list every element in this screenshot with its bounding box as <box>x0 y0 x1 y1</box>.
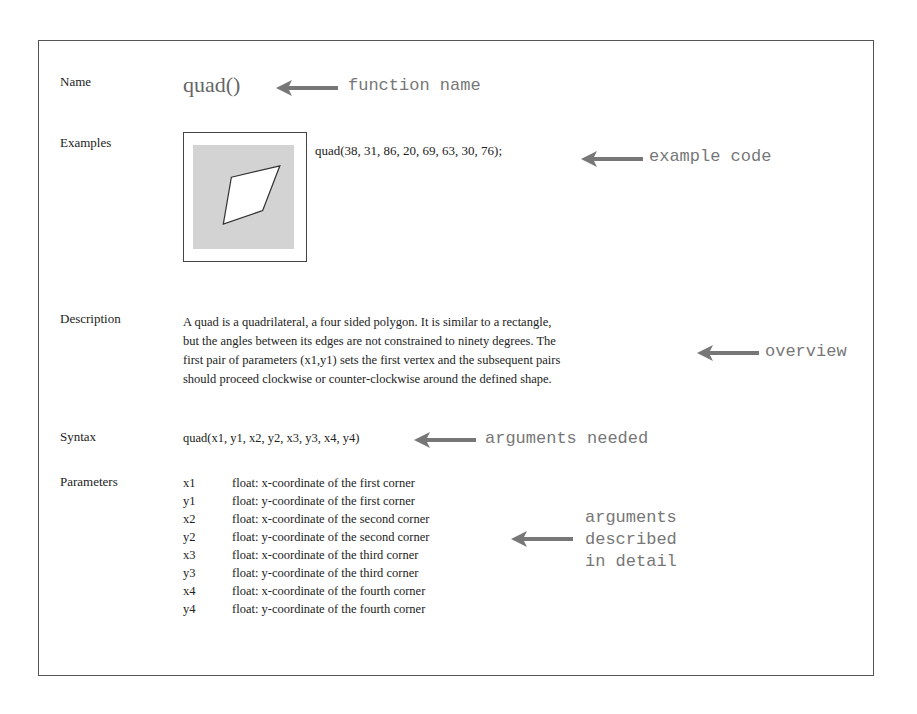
arrow-left-icon <box>511 531 573 547</box>
parameter-name: y2 <box>183 528 232 546</box>
label-name: Name <box>60 74 91 90</box>
parameter-row: y4float: y-coordinate of the fourth corn… <box>183 600 430 618</box>
parameter-row: y1float: y-coordinate of the first corne… <box>183 492 430 510</box>
parameter-name: x1 <box>183 474 232 492</box>
description-line: should proceed clockwise or counter-cloc… <box>183 370 693 389</box>
parameter-desc: float: x-coordinate of the fourth corner <box>232 582 425 600</box>
annotation-overview: overview <box>765 342 847 361</box>
description-line: but the angles between its edges are not… <box>183 332 693 351</box>
example-image <box>183 132 307 262</box>
label-examples: Examples <box>60 135 111 151</box>
example-canvas <box>193 145 294 249</box>
label-parameters: Parameters <box>60 474 118 490</box>
parameter-desc: float: y-coordinate of the third corner <box>232 564 418 582</box>
arrow-left-icon <box>697 345 759 361</box>
arrow-left-icon <box>276 80 338 96</box>
description-text: A quad is a quadrilateral, a four sided … <box>183 313 693 389</box>
annotation-arguments-needed: arguments needed <box>485 429 648 448</box>
parameter-row: x1float: x-coordinate of the first corne… <box>183 474 430 492</box>
annotation-example-code: example code <box>649 147 771 166</box>
parameter-row: x4float: x-coordinate of the fourth corn… <box>183 582 430 600</box>
parameter-desc: float: x-coordinate of the first corner <box>232 474 415 492</box>
parameter-desc: float: x-coordinate of the third corner <box>232 546 418 564</box>
parameter-row: x3float: x-coordinate of the third corne… <box>183 546 430 564</box>
parameter-name: x3 <box>183 546 232 564</box>
quad-shape <box>193 145 294 249</box>
parameter-name: y1 <box>183 492 232 510</box>
annotation-arguments-detail: arguments described in detail <box>585 507 677 573</box>
parameter-row: x2float: x-coordinate of the second corn… <box>183 510 430 528</box>
parameter-name: y4 <box>183 600 232 618</box>
example-code: quad(38, 31, 86, 20, 69, 63, 30, 76); <box>315 143 502 159</box>
parameter-desc: float: x-coordinate of the second corner <box>232 510 430 528</box>
syntax-text: quad(x1, y1, x2, y2, x3, y3, x4, y4) <box>183 431 359 446</box>
annotation-function-name: function name <box>348 76 481 95</box>
parameter-desc: float: y-coordinate of the fourth corner <box>232 600 425 618</box>
parameter-desc: float: y-coordinate of the second corner <box>232 528 430 546</box>
parameter-name: x2 <box>183 510 232 528</box>
description-line: A quad is a quadrilateral, a four sided … <box>183 313 693 332</box>
parameter-desc: float: y-coordinate of the first corner <box>232 492 415 510</box>
label-description: Description <box>60 311 121 327</box>
label-syntax: Syntax <box>60 429 96 445</box>
function-name: quad() <box>183 72 240 98</box>
parameter-name: x4 <box>183 582 232 600</box>
arrow-left-icon <box>581 151 643 167</box>
description-line: first pair of parameters (x1,y1) sets th… <box>183 351 693 370</box>
parameter-row: y2float: y-coordinate of the second corn… <box>183 528 430 546</box>
arrow-left-icon <box>414 432 476 448</box>
parameters-list: x1float: x-coordinate of the first corne… <box>183 474 430 618</box>
parameter-name: y3 <box>183 564 232 582</box>
parameter-row: y3float: y-coordinate of the third corne… <box>183 564 430 582</box>
